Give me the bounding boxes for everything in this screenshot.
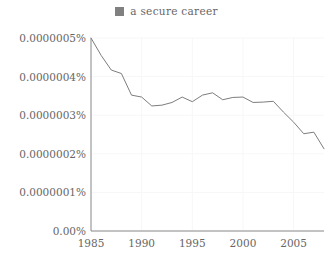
ngram-chart: a secure career 0.0000005%0.0000004%0.00… — [0, 0, 333, 265]
x-axis-tick-label: 1985 — [78, 237, 105, 249]
x-axis-tick-labels: 19851990199520002005 — [0, 0, 333, 265]
x-axis-tick-label: 1990 — [128, 237, 155, 249]
x-axis-tick-label: 2005 — [280, 237, 307, 249]
x-axis-tick-label: 2000 — [230, 237, 257, 249]
x-axis-tick-label: 1995 — [179, 237, 206, 249]
